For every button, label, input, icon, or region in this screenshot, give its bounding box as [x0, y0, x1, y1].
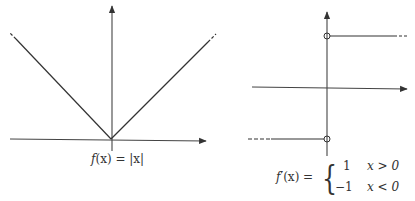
abs-left-branch [16, 39, 111, 139]
piecewise-row1-value: 1 [343, 159, 351, 173]
abs-right-branch [111, 42, 208, 139]
abs-chart [9, 6, 216, 151]
abs-right-branch-dash [208, 34, 216, 42]
derivative-chart [248, 12, 408, 156]
piecewise-row1-condition: x > 0 [367, 159, 399, 173]
deriv-caption-lhs: f′(x) = [276, 170, 313, 184]
abs-caption-rest: (x) = |x| [95, 152, 144, 166]
abs-x-axis [10, 139, 206, 141]
piecewise-row2-value: −1 [335, 180, 353, 194]
abs-left-branch-dash [9, 32, 16, 39]
piecewise-row2-condition: x < 0 [367, 180, 399, 194]
figure-canvas [0, 0, 415, 201]
deriv-x-axis [252, 87, 407, 89]
deriv-caption-rest: ′(x) = [280, 170, 313, 184]
abs-caption: f(x) = |x| [91, 152, 144, 166]
